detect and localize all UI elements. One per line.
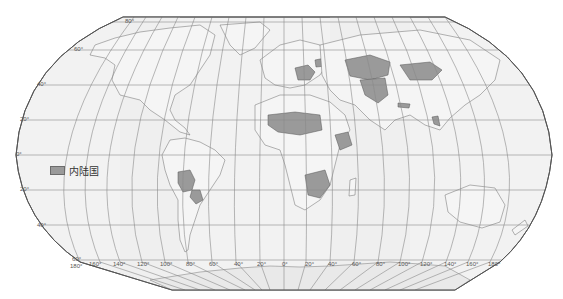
lat-label-20n: 20° bbox=[20, 116, 29, 122]
lon-label: 180° bbox=[70, 263, 82, 269]
lon-label: 120° bbox=[137, 261, 149, 267]
lat-label-60s: 60° bbox=[72, 256, 81, 262]
nepal bbox=[398, 103, 410, 108]
lon-label: 160° bbox=[89, 261, 101, 267]
lon-label: 120° bbox=[420, 261, 432, 267]
lon-label: 20° bbox=[257, 261, 266, 267]
legend-swatch-landlocked bbox=[50, 166, 65, 175]
madagascar bbox=[349, 178, 356, 196]
lon-label: 80° bbox=[186, 261, 195, 267]
lat-label-40s: 40° bbox=[37, 222, 46, 228]
legend-label-landlocked: 内陆国 bbox=[69, 163, 99, 178]
legend: 内陆国 bbox=[50, 163, 99, 178]
lon-label: 40° bbox=[328, 261, 337, 267]
lat-label-40n: 40° bbox=[37, 81, 46, 87]
lon-label: 80° bbox=[376, 261, 385, 267]
lon-label: 180° bbox=[488, 261, 500, 267]
lon-label: 160° bbox=[466, 261, 478, 267]
lon-label: 140° bbox=[113, 261, 125, 267]
lat-label-20s: 20° bbox=[20, 186, 29, 192]
lon-label: 100° bbox=[398, 261, 410, 267]
lat-label-80n: 80° bbox=[125, 18, 134, 24]
lon-label: 100° bbox=[160, 261, 172, 267]
world-map bbox=[0, 0, 563, 299]
lon-label: 60° bbox=[352, 261, 361, 267]
lon-label: 20° bbox=[305, 261, 314, 267]
lon-label: 40° bbox=[234, 261, 243, 267]
lon-label: 0° bbox=[282, 261, 288, 267]
lon-label: 60° bbox=[209, 261, 218, 267]
lat-label-60n: 60° bbox=[74, 46, 83, 52]
lon-label: 140° bbox=[444, 261, 456, 267]
lat-label-0: 0° bbox=[16, 151, 22, 157]
